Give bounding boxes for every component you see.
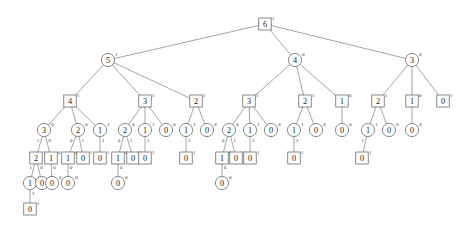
tree-edge [112,65,139,95]
node-value: 0 [28,205,32,214]
node-superscript: 0 [302,52,305,57]
square-node[interactable]: 10 [336,93,352,107]
square-node[interactable]: 01 [437,93,453,107]
node-value: 0 [410,126,414,135]
node-value: 0 [40,179,44,188]
node-value: 0 [81,154,85,163]
edge-label: 1 [30,165,33,170]
node-superscript: 1 [107,150,110,155]
diagram-canvas: 6151403041312131211021100130201120110011… [0,0,460,228]
node-value: 2 [303,97,307,106]
edge-label: 0 [70,165,73,170]
circle-node[interactable]: 00 [215,175,232,190]
node-superscript: 0 [85,122,88,127]
circle-node[interactable]: 00 [61,175,78,190]
node-value: 2 [123,126,127,135]
edge-labels-layer: 100110111011111000001 [30,138,365,196]
circle-node[interactable]: 00 [45,175,62,190]
node-superscript: 1 [77,93,80,98]
node-value: 4 [68,97,72,106]
circle-node[interactable]: 20 [71,122,88,137]
square-node[interactable]: 01 [288,150,304,164]
node-value: 0 [164,126,168,135]
square-node[interactable]: 01 [244,150,260,164]
circle-node[interactable]: 11 [361,122,378,137]
circle-node[interactable]: 00 [382,122,399,137]
circle-node[interactable]: 00 [335,122,352,137]
tree-edge [249,107,250,123]
node-value: 0 [441,97,445,106]
square-node[interactable]: 21 [190,93,206,107]
node-superscript: 0 [173,122,176,127]
circle-node[interactable]: 00 [111,175,128,190]
node-value: 1 [184,126,188,135]
tree-edge [363,136,366,152]
square-node[interactable]: 10 [62,150,78,164]
node-value: 0 [98,154,102,163]
node-value: 1 [366,126,370,135]
tree-edge [114,25,258,58]
edge-label: 0 [49,138,52,143]
circle-node[interactable]: 11 [93,122,110,137]
node-superscript: 1 [107,122,110,127]
node-value: 0 [220,179,224,188]
nodes-layer: 6151403041312131211021100130201120110011… [23,16,453,215]
node-value: 1 [292,126,296,135]
circle-node[interactable]: 00 [309,122,326,137]
tree-edge [380,107,386,124]
circle-node[interactable]: 20 [118,122,135,137]
circle-node[interactable]: 00 [405,122,422,137]
circle-node[interactable]: 30 [37,122,54,137]
tree-edge [255,64,290,95]
square-node[interactable]: 21 [299,93,315,107]
node-superscript: 0 [125,175,128,180]
square-node[interactable]: 31 [243,93,259,107]
node-superscript: 1 [450,93,453,98]
square-node[interactable]: 01 [77,150,93,164]
square-node[interactable]: 21 [30,150,46,164]
square-node[interactable]: 01 [356,150,372,164]
square-node[interactable]: 31 [139,93,155,107]
square-node[interactable]: 01 [94,150,110,164]
circle-node[interactable]: 00 [200,122,217,137]
node-superscript: 1 [152,122,155,127]
node-superscript: 0 [229,175,232,180]
square-node[interactable]: 01 [139,150,155,164]
circle-node[interactable]: 51 [101,52,118,67]
square-node[interactable]: 10 [112,150,128,164]
node-value: 2 [376,97,380,106]
square-node[interactable]: 21 [372,93,388,107]
tree-edge [72,107,77,124]
circle-node[interactable]: 11 [179,122,196,137]
square-node[interactable]: 61 [259,16,275,30]
node-superscript: 0 [419,52,422,57]
circle-node[interactable]: 20 [222,122,239,137]
edge-label: 1 [361,138,364,143]
node-value: 1 [248,126,252,135]
circle-node[interactable]: 11 [138,122,155,137]
tree-diagram: 6151403041312131211021100130201120110011… [0,0,460,228]
node-value: 1 [28,179,32,188]
node-value: 3 [410,56,414,65]
edge-label: 1 [234,138,237,143]
square-node[interactable]: 10 [406,93,422,107]
edge-label: 0 [70,138,73,143]
square-node[interactable]: 01 [24,201,40,215]
node-superscript: 0 [349,93,352,98]
square-node[interactable]: 41 [64,93,80,107]
tree-edge [297,66,304,95]
node-value: 3 [42,126,46,135]
node-value: 1 [143,126,147,135]
circle-node[interactable]: 11 [243,122,260,137]
tree-edge [233,107,245,125]
circle-node[interactable]: 00 [264,122,281,137]
node-superscript: 0 [278,122,281,127]
circle-node[interactable]: 40 [288,52,305,67]
node-value: 0 [131,154,135,163]
square-node[interactable]: 01 [180,150,196,164]
circle-node[interactable]: 11 [287,122,304,137]
circle-node[interactable]: 30 [405,52,422,67]
square-node[interactable]: 10 [45,150,61,164]
circle-node[interactable]: 00 [159,122,176,137]
edge-label: 1 [32,191,35,196]
